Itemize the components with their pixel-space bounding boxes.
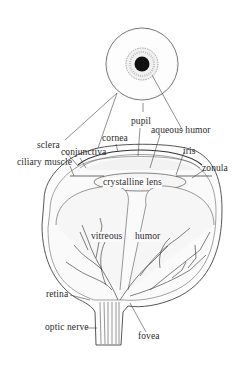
label-iris: iris (183, 147, 196, 157)
label-zonula: zonula (202, 164, 228, 174)
cross-section-eye (42, 144, 222, 345)
eye-anatomy-diagram: pupil aqueous humor cornea sclera conjun… (0, 0, 241, 369)
label-crystalline-lens: crystalline lens (103, 178, 162, 188)
label-sclera: sclera (37, 141, 60, 151)
label-pupil: pupil (131, 117, 151, 127)
front-view-eye (106, 28, 178, 100)
label-vitreous: vitreous (91, 232, 122, 242)
label-retina: retina (46, 290, 68, 300)
pupil-front (135, 57, 150, 72)
label-fovea: fovea (138, 332, 160, 342)
label-cornea: cornea (102, 134, 128, 144)
label-humor: humor (135, 232, 160, 242)
label-optic-nerve: optic nerve (45, 323, 89, 333)
label-ciliary-muscle: ciliary muscle (17, 158, 72, 168)
label-aqueous-humor: aqueous humor (151, 126, 211, 136)
